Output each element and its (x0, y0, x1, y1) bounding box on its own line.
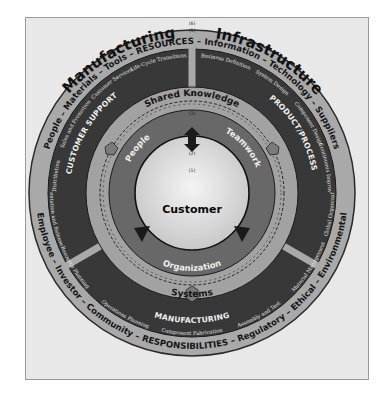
manufacturing-wheel-diagram: Manufacturing Infrastructure (6) (5) Peo… (0, 0, 384, 396)
level-5-label: (5) (189, 28, 196, 33)
customer-label: Customer (162, 203, 222, 216)
level-3-label: (3) (189, 111, 196, 116)
level-1-label: (1) (189, 168, 196, 173)
level-2-label: (2) (189, 151, 196, 156)
level-6-label: (6) (189, 21, 196, 26)
